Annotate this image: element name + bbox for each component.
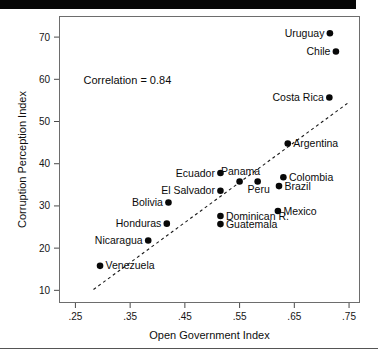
data-point bbox=[217, 221, 224, 228]
data-point-label: Panama bbox=[221, 165, 260, 177]
data-points-group: UruguayChileCosta RicaArgentinaEcuadorCo… bbox=[95, 27, 339, 272]
y-tick-label: 70 bbox=[39, 32, 51, 43]
data-point-label: Argentina bbox=[293, 137, 338, 149]
data-point bbox=[326, 94, 333, 101]
data-point-label: Guatemala bbox=[226, 218, 278, 230]
data-point-label: Venezuela bbox=[106, 259, 155, 271]
page-bottom-rule bbox=[0, 348, 378, 349]
data-point bbox=[164, 220, 171, 227]
x-tick-label: .55 bbox=[233, 311, 247, 322]
x-tick-label: .75 bbox=[342, 311, 356, 322]
y-tick-label: 10 bbox=[39, 285, 51, 296]
data-point-label: Nicaragua bbox=[95, 234, 143, 246]
data-point-label: Chile bbox=[306, 45, 330, 57]
data-point bbox=[276, 183, 283, 190]
y-axis-ticks: 10203040506070 bbox=[39, 32, 59, 296]
y-tick-label: 50 bbox=[39, 116, 51, 127]
data-point-label: Costa Rica bbox=[272, 91, 324, 103]
data-point bbox=[236, 178, 243, 185]
y-tick-label: 60 bbox=[39, 74, 51, 85]
data-point bbox=[165, 199, 172, 206]
x-axis-title: Open Government Index bbox=[149, 329, 270, 341]
annotations-group: Correlation = 0.84 bbox=[84, 74, 172, 86]
x-tick-label: .45 bbox=[178, 311, 192, 322]
plot-svg-canvas: .25.35.45.55.65.75 10203040506070 Urugua… bbox=[0, 0, 378, 357]
data-point bbox=[217, 187, 224, 194]
x-tick-label: .65 bbox=[287, 311, 301, 322]
data-point bbox=[327, 30, 334, 37]
data-point-label: Brazil bbox=[285, 180, 311, 192]
y-tick-label: 40 bbox=[39, 158, 51, 169]
data-point-label: Ecuador bbox=[176, 167, 216, 179]
data-point-label: Uruguay bbox=[285, 27, 325, 39]
data-point-label: Honduras bbox=[116, 217, 162, 229]
y-tick-label: 30 bbox=[39, 200, 51, 211]
data-point bbox=[284, 140, 291, 147]
data-point-label: Bolivia bbox=[132, 196, 163, 208]
data-point bbox=[145, 237, 152, 244]
data-point bbox=[97, 263, 104, 270]
scatter-chart-figure: .25.35.45.55.65.75 10203040506070 Urugua… bbox=[0, 0, 378, 357]
x-tick-label: .35 bbox=[123, 311, 137, 322]
y-tick-label: 20 bbox=[39, 243, 51, 254]
x-axis-ticks: .25.35.45.55.65.75 bbox=[68, 303, 356, 322]
data-point bbox=[333, 48, 340, 55]
correlation-annotation: Correlation = 0.84 bbox=[84, 74, 172, 86]
x-tick-label: .25 bbox=[68, 311, 82, 322]
y-axis-title: Corruption Perception Index bbox=[16, 91, 28, 228]
data-point bbox=[217, 213, 224, 220]
data-point-label: El Salvador bbox=[161, 184, 215, 196]
data-point-label: Peru bbox=[248, 183, 270, 195]
